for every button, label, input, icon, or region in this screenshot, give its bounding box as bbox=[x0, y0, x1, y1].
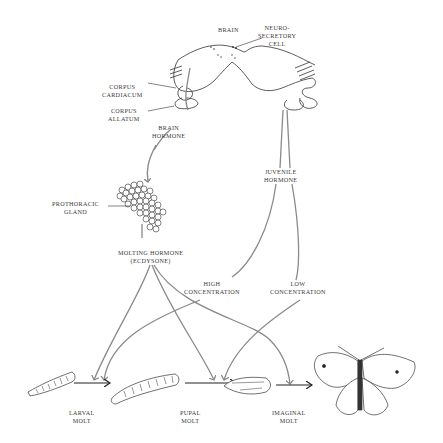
label-juvenile-hormone: JUVENILE HORMONE bbox=[264, 168, 297, 184]
label-neurosecretory-cell: NEURO- SECRETORY CELL bbox=[258, 24, 296, 48]
larva-large bbox=[111, 374, 179, 404]
label-low-concentration: LOW CONCENTRATION bbox=[270, 280, 326, 296]
ecdysone-to-larval-arrow bbox=[94, 265, 150, 380]
corpus-organs bbox=[175, 98, 303, 110]
corpus-cardiacum-line2: CARDIACUM bbox=[102, 91, 143, 99]
brain-hormone-line1: BRAIN bbox=[152, 124, 185, 132]
neurosecretory-line2: SECRETORY bbox=[258, 32, 296, 40]
corpus-allatum-leader bbox=[148, 106, 174, 111]
neurosecretory-line1: NEURO- bbox=[258, 24, 296, 32]
pupal-molt-line1: PUPAL bbox=[180, 409, 201, 417]
corpus-allatum-line1: CORPUS bbox=[108, 107, 140, 115]
prothoracic-line2: GLAND bbox=[52, 208, 99, 216]
larval-molt-line2: MOLT bbox=[69, 417, 95, 425]
neurosecretory-line3: CELL bbox=[258, 40, 296, 48]
label-larval-molt: LARVAL MOLT bbox=[69, 409, 95, 425]
jh-line-right bbox=[287, 110, 290, 168]
low-to-pupal-arrow bbox=[224, 300, 300, 380]
brain-text: BRAIN bbox=[218, 26, 239, 34]
diagram-canvas bbox=[0, 0, 443, 443]
larva-small bbox=[28, 372, 75, 396]
high-to-larval-arrow bbox=[104, 300, 200, 380]
corpus-allatum-line2: ALLATUM bbox=[108, 115, 140, 123]
label-brain: BRAIN bbox=[218, 26, 239, 34]
juvenile-hormone-line2: HORMONE bbox=[264, 176, 297, 184]
label-brain-hormone: BRAIN HORMONE bbox=[152, 124, 185, 140]
jh-high-arrow bbox=[232, 184, 276, 277]
neurosecretory-dots bbox=[210, 46, 237, 59]
low-concentration-line1: LOW bbox=[270, 280, 326, 288]
brain-to-gland-arrow bbox=[147, 145, 156, 182]
label-corpus-allatum: CORPUS ALLATUM bbox=[108, 107, 140, 123]
label-molting-hormone: MOLTING HORMONE (ECDYSONE) bbox=[118, 249, 183, 265]
molting-hormone-line2: (ECDYSONE) bbox=[118, 257, 183, 265]
label-corpus-cardiacum: CORPUS CARDIACUM bbox=[102, 83, 143, 99]
label-imaginal-molt: IMAGINAL MOLT bbox=[272, 409, 306, 425]
corpus-cardiacum-line1: CORPUS bbox=[102, 83, 143, 91]
pupal-molt-line2: MOLT bbox=[180, 417, 201, 425]
label-pupal-molt: PUPAL MOLT bbox=[180, 409, 201, 425]
larval-molt-line1: LARVAL bbox=[69, 409, 95, 417]
brain-hormone-line2: HORMONE bbox=[152, 132, 185, 140]
corpus-cardiacum-leader bbox=[148, 83, 176, 88]
pupa bbox=[224, 377, 271, 394]
high-concentration-line1: HIGH bbox=[184, 280, 240, 288]
imaginal-molt-line1: IMAGINAL bbox=[272, 409, 306, 417]
imaginal-molt-line2: MOLT bbox=[272, 417, 306, 425]
jh-low-arrow bbox=[292, 184, 299, 280]
jh-line-left bbox=[280, 110, 283, 168]
low-concentration-line2: CONCENTRATION bbox=[270, 288, 326, 296]
molting-hormone-line1: MOLTING HORMONE bbox=[118, 249, 183, 257]
label-high-concentration: HIGH CONCENTRATION bbox=[184, 280, 240, 296]
label-prothoracic-gland: PROTHORACIC GLAND bbox=[52, 200, 99, 216]
juvenile-hormone-line1: JUVENILE bbox=[264, 168, 297, 176]
high-concentration-line2: CONCENTRATION bbox=[184, 288, 240, 296]
prothoracic-line1: PROTHORACIC bbox=[52, 200, 99, 208]
butterfly bbox=[314, 346, 415, 415]
